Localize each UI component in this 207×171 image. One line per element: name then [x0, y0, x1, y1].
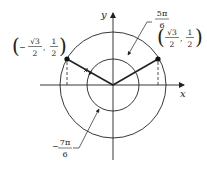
svg-text:2: 2: [170, 40, 175, 49]
svg-text:2: 2: [188, 40, 193, 49]
leader-5pi6: [128, 22, 152, 55]
svg-text:√3: √3: [30, 37, 40, 46]
svg-text:√3: √3: [167, 28, 177, 37]
svg-text:5π: 5π: [157, 9, 167, 18]
point-right: [155, 56, 160, 61]
radius-left: [67, 59, 113, 85]
svg-text:6: 6: [62, 150, 67, 159]
svg-text:,: ,: [180, 34, 183, 43]
leader-neg7pi6: [73, 109, 99, 148]
unit-circle-diagram: x y 5π 6 − 7π 6 ( − √3 2 , 1 2 ): [0, 0, 207, 171]
angle-label-neg7pi6: − 7π 6: [52, 138, 72, 159]
svg-text:): ): [59, 34, 67, 58]
svg-text:2: 2: [52, 49, 57, 58]
coord-label-right: ( √3 2 , 1 2 ): [157, 25, 203, 49]
svg-text:1: 1: [188, 28, 193, 37]
x-axis-label: x: [180, 88, 186, 99]
svg-text:2: 2: [33, 49, 38, 58]
y-axis-label: y: [100, 9, 107, 20]
svg-text:(: (: [157, 25, 165, 49]
svg-text:−: −: [19, 43, 26, 52]
svg-text:): ): [195, 25, 203, 49]
svg-text:,: ,: [43, 43, 46, 52]
svg-text:−: −: [52, 142, 59, 151]
svg-text:7π: 7π: [60, 138, 70, 147]
svg-text:1: 1: [52, 37, 57, 46]
radius-right: [113, 59, 158, 85]
coord-label-left: ( − √3 2 , 1 2 ): [12, 34, 67, 58]
